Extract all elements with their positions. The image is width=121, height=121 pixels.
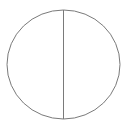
- divided-circle-diagram: [0, 0, 121, 121]
